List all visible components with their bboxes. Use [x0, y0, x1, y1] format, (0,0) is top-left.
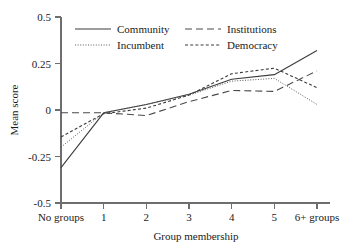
series-line-community [61, 50, 317, 167]
series-group [61, 50, 317, 167]
x-tick-label: 5 [272, 211, 278, 223]
x-axis-title: Group membership [153, 230, 239, 242]
x-tick-label: No groups [38, 211, 84, 223]
x-tick-group: No groups123456+ groups [38, 203, 339, 223]
line-chart: 0.50.250-0.25-0.5 No groups123456+ group… [0, 0, 353, 250]
x-tick-label: 6+ groups [295, 211, 339, 223]
series-line-institutions [61, 71, 317, 116]
y-tick-label: 0.25 [32, 58, 52, 70]
legend-label-institutions: Institutions [227, 23, 277, 35]
y-tick-group: 0.50.250-0.25-0.5 [28, 11, 61, 209]
y-tick-label: 0 [46, 104, 52, 116]
legend-label-incumbent: Incumbent [117, 39, 164, 51]
legend-label-community: Community [117, 23, 170, 35]
y-tick-label: -0.5 [34, 197, 52, 209]
x-tick-label: 3 [186, 211, 192, 223]
x-tick-label: 1 [101, 211, 107, 223]
y-axis-title: Mean score [8, 84, 20, 135]
x-tick-label: 4 [229, 211, 235, 223]
y-tick-label: 0.5 [37, 11, 51, 23]
x-tick-label: 2 [144, 211, 150, 223]
y-tick-label: -0.25 [28, 151, 51, 163]
legend-label-democracy: Democracy [227, 39, 278, 51]
chart-legend: CommunityIncumbentInstitutionsDemocracy [75, 23, 278, 51]
series-line-democracy [61, 68, 317, 137]
chart-figure: 0.50.250-0.25-0.5 No groups123456+ group… [0, 0, 353, 250]
